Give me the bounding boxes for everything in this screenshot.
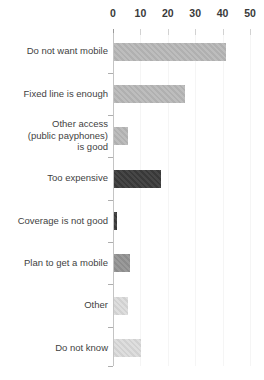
category-label-line: Plan to get a mobile (0, 257, 108, 269)
x-axis-tick-mark (223, 29, 224, 35)
category-label-line: Do not know (0, 342, 108, 354)
x-axis-tick-label: 40 (211, 7, 235, 19)
category-label-line: Do not want mobile (0, 45, 108, 57)
horizontal-bar-chart: 01020304050Do not want mobileFixed line … (0, 0, 264, 380)
category-label-line: Other access (0, 118, 108, 130)
x-axis-tick-mark (195, 29, 196, 35)
category-label: Do not know (0, 342, 108, 354)
x-axis-tick-label: 10 (128, 7, 152, 19)
x-axis-tick-label: 50 (238, 7, 262, 19)
x-axis-tick-mark (250, 29, 251, 35)
bar (114, 212, 117, 230)
x-axis-tick-mark (140, 29, 141, 35)
category-label: Coverage is not good (0, 215, 108, 227)
bar (114, 254, 130, 272)
bar (114, 43, 226, 61)
category-label: Other access(public payphones)is good (0, 118, 108, 153)
x-axis-tick-label: 20 (156, 7, 180, 19)
y-axis-tick-mark (108, 200, 113, 201)
category-label: Other (0, 299, 108, 311)
y-axis-tick-mark (108, 242, 113, 243)
category-label-line: Coverage is not good (0, 215, 108, 227)
y-axis-tick-mark (108, 73, 113, 74)
x-axis-tick-label: 0 (101, 7, 125, 19)
gridline (250, 33, 251, 366)
category-label-line: Other (0, 299, 108, 311)
category-label: Too expensive (0, 172, 108, 184)
y-axis-tick-mark (108, 157, 113, 158)
category-label-line: (public payphones) (0, 130, 108, 142)
gridline (140, 33, 141, 366)
gridline (195, 33, 196, 366)
category-label: Plan to get a mobile (0, 257, 108, 269)
bar (114, 339, 141, 357)
y-axis-tick-mark (108, 327, 113, 328)
bar (114, 170, 161, 188)
category-label: Do not want mobile (0, 45, 108, 57)
category-label-line: is good (0, 141, 108, 153)
gridline (223, 33, 224, 366)
category-label-line: Too expensive (0, 172, 108, 184)
x-axis-tick-label: 30 (183, 7, 207, 19)
x-axis-tick-mark (168, 29, 169, 35)
y-axis-tick-mark (108, 115, 113, 116)
bar (114, 127, 128, 145)
bar (114, 85, 185, 103)
y-axis-tick-mark (108, 284, 113, 285)
category-label: Fixed line is enough (0, 88, 108, 100)
bar (114, 297, 128, 315)
y-axis-line (113, 33, 114, 366)
gridline (168, 33, 169, 366)
y-axis-tick-mark (108, 366, 113, 367)
category-label-line: Fixed line is enough (0, 88, 108, 100)
